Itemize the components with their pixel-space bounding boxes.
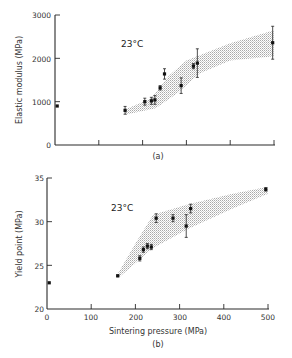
ytick-b-25: 25	[34, 262, 44, 271]
xtick-b-400: 400	[217, 313, 232, 322]
data-point	[159, 86, 162, 89]
data-point	[48, 281, 51, 284]
xtick-b-500: 500	[261, 313, 276, 322]
data-point	[150, 99, 153, 102]
data-point	[116, 274, 119, 277]
data-point	[146, 245, 149, 248]
y-axis-label-b: Yield point (MPa)	[15, 210, 24, 278]
data-point	[153, 98, 156, 101]
xtick-b-100: 100	[84, 313, 99, 322]
shaded-band-a	[125, 30, 274, 115]
data-point	[171, 217, 174, 220]
panel-label-b: (b)	[152, 340, 163, 349]
data-point	[155, 217, 158, 220]
ticks-a	[55, 15, 274, 145]
chart-a: 0 1000 2000 3000 Elastic modulus (MPa) 2…	[15, 11, 275, 161]
shaded-band-b	[118, 187, 268, 279]
data-point	[271, 41, 274, 44]
panel-label-a: (a)	[152, 152, 163, 161]
data-point	[163, 72, 166, 75]
ytick-a-0: 0	[46, 141, 51, 150]
data-point	[150, 245, 153, 248]
ytick-b-30: 30	[34, 218, 44, 227]
xtick-b-200: 200	[129, 313, 144, 322]
ytick-b-35: 35	[34, 174, 44, 183]
y-axis-label-a: Elastic modulus (MPa)	[15, 36, 24, 124]
data-point	[142, 248, 145, 251]
xtick-b-300: 300	[173, 313, 188, 322]
x-axis-label-b: Sintering pressure (MPa)	[109, 327, 207, 336]
data-point	[56, 104, 59, 107]
data-point	[196, 62, 199, 65]
temperature-label-b: 23°C	[111, 203, 133, 213]
data-point	[264, 188, 267, 191]
data-point	[123, 109, 126, 112]
xtick-b-0: 0	[45, 313, 50, 322]
data-point	[189, 207, 192, 210]
temperature-label-a: 23°C	[121, 39, 143, 49]
figure: 0 1000 2000 3000 Elastic modulus (MPa) 2…	[0, 0, 292, 358]
ytick-b-20: 20	[34, 305, 44, 314]
data-point	[180, 84, 183, 87]
ytick-a-2000: 2000	[32, 55, 51, 64]
ytick-a-1000: 1000	[32, 98, 51, 107]
chart-b: 20 25 30 35 0 100 200 300 400 500 Yield …	[15, 174, 275, 349]
data-point	[138, 257, 141, 260]
ytick-a-3000: 3000	[32, 11, 51, 20]
data-point	[143, 100, 146, 103]
data-point	[185, 224, 188, 227]
data-point	[192, 65, 195, 68]
